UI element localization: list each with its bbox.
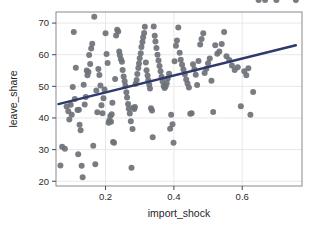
scatter-point bbox=[104, 51, 110, 57]
scatter-point bbox=[69, 112, 75, 118]
scatter-point bbox=[57, 162, 63, 168]
scatter-point bbox=[238, 103, 244, 109]
scatter-point bbox=[189, 110, 195, 116]
scatter-point bbox=[197, 42, 203, 48]
scatter-point bbox=[157, 63, 163, 69]
scatter-point bbox=[170, 121, 176, 127]
scatter-point bbox=[134, 71, 140, 77]
scatter-point bbox=[156, 57, 162, 63]
scatter-point bbox=[193, 72, 199, 78]
scatter-point bbox=[77, 122, 83, 128]
scatter-point bbox=[168, 112, 174, 118]
scatter-point bbox=[216, 49, 222, 55]
scatter-point bbox=[136, 61, 142, 67]
scatter-point bbox=[138, 50, 144, 56]
scatter-point bbox=[109, 111, 115, 117]
y-tick-label: 20 bbox=[38, 176, 49, 187]
scatter-point bbox=[147, 86, 153, 92]
scatter-point bbox=[81, 82, 87, 88]
scatter-point bbox=[115, 29, 121, 35]
scatter-point bbox=[78, 127, 84, 133]
y-tick-label: 50 bbox=[38, 81, 49, 92]
scatter-point bbox=[98, 102, 104, 108]
scatter-point bbox=[194, 82, 200, 88]
scatter-point bbox=[175, 25, 181, 31]
scatter-point bbox=[120, 67, 126, 73]
scatter-point bbox=[250, 89, 256, 95]
scatter-point bbox=[90, 143, 96, 149]
scatter-point bbox=[190, 61, 196, 67]
x-tick-label: 0.6 bbox=[236, 191, 249, 202]
scatter-point bbox=[132, 104, 138, 110]
scatter-point bbox=[137, 55, 143, 61]
scatter-point bbox=[153, 45, 159, 51]
scatter-point bbox=[174, 37, 180, 43]
scatter-point bbox=[235, 64, 241, 70]
scatter-point bbox=[129, 165, 135, 171]
scatter-point bbox=[245, 65, 251, 71]
scatter-point bbox=[108, 119, 114, 125]
scatter-point bbox=[152, 33, 158, 39]
scatter-point bbox=[144, 67, 150, 73]
scatter-point bbox=[94, 109, 100, 115]
scatter-point bbox=[199, 36, 205, 42]
scatter-point bbox=[134, 77, 140, 83]
scatter-point bbox=[130, 126, 136, 132]
scatter-point bbox=[141, 30, 147, 36]
y-axis-title: leave_share bbox=[7, 70, 19, 127]
scatter-point bbox=[112, 76, 118, 82]
scatter-point bbox=[154, 52, 160, 58]
scatter-point bbox=[210, 109, 216, 115]
y-tick-label: 40 bbox=[38, 112, 49, 123]
scatter-point bbox=[99, 110, 105, 116]
y-tick-label: 30 bbox=[38, 144, 49, 155]
x-tick-label: 0.2 bbox=[99, 191, 112, 202]
scatter-point bbox=[92, 161, 98, 167]
scatter-point bbox=[91, 14, 97, 20]
scatter-point bbox=[150, 134, 156, 140]
y-tick-label: 60 bbox=[38, 49, 49, 60]
scatter-point bbox=[219, 41, 225, 47]
scatter-point bbox=[105, 60, 111, 66]
scatter-point bbox=[200, 30, 206, 36]
scatter-point bbox=[111, 140, 117, 146]
scatter-point bbox=[124, 94, 130, 100]
scatter-point bbox=[87, 61, 93, 67]
scatter-point bbox=[172, 58, 178, 64]
scatter-point bbox=[247, 112, 253, 118]
scatter-point bbox=[100, 95, 106, 101]
plot-area-background bbox=[56, 12, 302, 186]
scatter-point bbox=[93, 87, 99, 93]
scatter-point bbox=[152, 38, 158, 44]
scatter-point bbox=[186, 85, 192, 91]
scatter-point bbox=[151, 24, 157, 30]
scatter-point bbox=[80, 174, 86, 180]
scatter-point bbox=[177, 50, 183, 56]
scatter-point bbox=[127, 111, 133, 117]
scatter-point bbox=[79, 163, 85, 169]
scatter-point bbox=[138, 44, 144, 50]
scatter-point bbox=[178, 57, 184, 63]
scatter-point bbox=[195, 58, 201, 64]
scatter-point bbox=[119, 59, 125, 65]
scatter-point bbox=[143, 60, 149, 66]
scatter-point bbox=[123, 89, 129, 95]
scatter-point bbox=[85, 69, 91, 75]
scatter-point bbox=[128, 118, 134, 124]
scatter-point bbox=[221, 29, 227, 35]
scatter-point bbox=[149, 107, 155, 113]
scatter-point bbox=[207, 56, 213, 62]
scatter-point bbox=[62, 146, 68, 152]
scatter-point bbox=[171, 140, 177, 146]
scatter-chart: 203040506070 0.20.40.6 import_shock leav… bbox=[0, 0, 317, 228]
scatter-point bbox=[243, 72, 249, 78]
scatter-point bbox=[86, 52, 92, 58]
y-tick-label: 70 bbox=[38, 17, 49, 28]
scatter-point bbox=[212, 42, 218, 48]
scatter-point bbox=[103, 30, 109, 36]
scatter-point bbox=[82, 101, 88, 107]
scatter-point bbox=[96, 72, 102, 78]
scatter-point bbox=[208, 78, 214, 84]
scatter-point bbox=[158, 68, 164, 74]
scatter-point bbox=[173, 43, 179, 49]
